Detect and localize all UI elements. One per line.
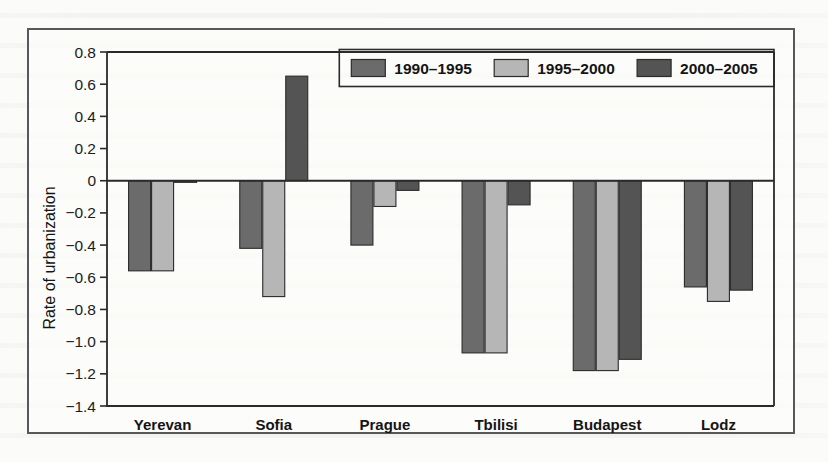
y-tick-label: −1.0 [65, 333, 96, 350]
bar [351, 181, 373, 245]
bar [508, 181, 530, 205]
y-tick-label: −1.2 [65, 365, 96, 382]
legend-swatch [637, 60, 671, 77]
y-tick-label: −0.6 [65, 269, 96, 286]
bars-group [129, 76, 753, 370]
y-axis-title-group: Rate of urbanization [41, 186, 58, 329]
x-axis-category-label: Prague [359, 416, 410, 433]
x-axis-category-label: Budapest [573, 416, 641, 433]
legend-swatch [494, 60, 528, 77]
legend-label: 2000–2005 [680, 60, 758, 77]
x-axis-category-label: Yerevan [134, 416, 192, 433]
bar [240, 181, 262, 249]
x-axis-category-label: Sofia [255, 416, 292, 433]
bar [684, 181, 706, 287]
y-tick-label: −0.4 [65, 237, 96, 254]
y-tick-label: −0.2 [65, 204, 96, 221]
y-tick-label: 0.6 [74, 76, 96, 93]
bar-chart: Rate of urbanization 0.80.60.40.20−0.2−0… [29, 30, 797, 436]
y-tick-label: 0.2 [74, 140, 96, 157]
bar [152, 181, 174, 271]
legend: 1990–19951995–20002000–2005 [339, 50, 774, 87]
y-tick-label: −0.8 [65, 301, 96, 318]
bar [374, 181, 396, 207]
bar [397, 181, 419, 191]
y-axis-title: Rate of urbanization [41, 186, 58, 329]
y-tick-label: 0 [87, 172, 96, 189]
bar [619, 181, 641, 360]
bar [573, 181, 595, 371]
axis-spines [107, 52, 774, 406]
bar [263, 181, 285, 297]
x-axis-category-label: Tbilisi [474, 416, 517, 433]
x-axis-category-label: Lodz [701, 416, 736, 433]
legend-label: 1990–1995 [394, 60, 472, 77]
chart-area: Rate of urbanization 0.80.60.40.20−0.2−0… [29, 30, 793, 432]
y-tick-label: −1.4 [65, 398, 96, 415]
legend-label: 1995–2000 [537, 60, 615, 77]
bar [129, 181, 151, 271]
legend-swatch [351, 60, 385, 77]
bar [707, 181, 729, 302]
y-tick-label: 0.4 [74, 108, 96, 125]
y-axis-ticks: 0.80.60.40.20−0.2−0.4−0.6−0.8−1.0−1.2−1.… [65, 44, 107, 415]
bar [485, 181, 507, 353]
bar [286, 76, 308, 181]
y-tick-label: 0.8 [74, 44, 96, 61]
bar [462, 181, 484, 353]
x-axis-labels: YerevanSofiaPragueTbilisiBudapestLodz [134, 416, 736, 433]
axes [107, 52, 774, 406]
figure-frame: Rate of urbanization 0.80.60.40.20−0.2−0… [27, 28, 795, 434]
bar [596, 181, 618, 371]
bar [730, 181, 752, 290]
